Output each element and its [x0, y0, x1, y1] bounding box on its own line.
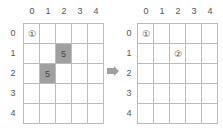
grid-cell [186, 44, 202, 64]
axis-label: 3 [8, 83, 18, 103]
grid-cell [72, 84, 88, 104]
grid-cell [24, 64, 40, 84]
axis-label: 3 [72, 6, 88, 16]
grid-cell [88, 24, 104, 44]
grid-cell [88, 64, 104, 84]
axis-label: 4 [202, 6, 218, 16]
axis-label: 4 [88, 6, 104, 16]
grid-cell [56, 24, 72, 44]
grid-cell [170, 24, 186, 44]
grid-cell [72, 24, 88, 44]
grid-cell [154, 84, 170, 104]
grid-cell [202, 44, 218, 64]
left-row-labels: 01234 [8, 23, 18, 123]
grid-cell [186, 104, 202, 124]
grid-cell [24, 44, 40, 64]
grid-cell [202, 64, 218, 84]
grid-cell [154, 44, 170, 64]
grid-cell [202, 24, 218, 44]
grid-cell [154, 104, 170, 124]
axis-label: 0 [8, 23, 18, 43]
grid-cell: 5 [40, 64, 56, 84]
right-arrow-icon [107, 66, 119, 76]
axis-label: 4 [8, 103, 18, 123]
grid-cell: ② [170, 44, 186, 64]
grid-cell: ① [138, 24, 154, 44]
axis-label: 3 [186, 6, 202, 16]
grid-cell [170, 84, 186, 104]
axis-label: 3 [124, 83, 134, 103]
grid-cell [138, 104, 154, 124]
grid-cell [56, 104, 72, 124]
grid-cell [56, 84, 72, 104]
grid-cell [202, 84, 218, 104]
axis-label: 1 [40, 6, 56, 16]
left-column-labels: 01234 [24, 6, 104, 16]
grid-cell [56, 64, 72, 84]
grid-cell [24, 84, 40, 104]
grid-cell [72, 104, 88, 124]
axis-label: 2 [8, 63, 18, 83]
right-row-labels: 01234 [124, 23, 134, 123]
grid-cell [186, 84, 202, 104]
grid-cell [186, 64, 202, 84]
grid-cell [40, 24, 56, 44]
axis-label: 2 [56, 6, 72, 16]
grid-cell [138, 84, 154, 104]
grid-cell [138, 64, 154, 84]
grid-cell [88, 84, 104, 104]
grid-cell [40, 84, 56, 104]
axis-label: 1 [8, 43, 18, 63]
axis-label: 0 [124, 23, 134, 43]
grid-cell [40, 104, 56, 124]
axis-label: 1 [154, 6, 170, 16]
axis-label: 2 [124, 63, 134, 83]
grid-cell [88, 44, 104, 64]
right-column-labels: 01234 [138, 6, 218, 16]
axis-label: 2 [170, 6, 186, 16]
grid-cell [138, 44, 154, 64]
axis-label: 4 [124, 103, 134, 123]
grid-cell [88, 104, 104, 124]
grid-cell [40, 44, 56, 64]
grid-cell [72, 64, 88, 84]
axis-label: 1 [124, 43, 134, 63]
grid-cell [154, 24, 170, 44]
grid-cell: 5 [56, 44, 72, 64]
right-grid: ①② [137, 23, 218, 124]
grid-cell [170, 104, 186, 124]
grid-cell [186, 24, 202, 44]
axis-label: 0 [138, 6, 154, 16]
grid-cell: ① [24, 24, 40, 44]
grid-cell [202, 104, 218, 124]
left-grid: ①55 [23, 23, 104, 124]
grid-cell [170, 64, 186, 84]
axis-label: 0 [24, 6, 40, 16]
grid-cell [72, 44, 88, 64]
grid-cell [24, 104, 40, 124]
grid-cell [154, 64, 170, 84]
